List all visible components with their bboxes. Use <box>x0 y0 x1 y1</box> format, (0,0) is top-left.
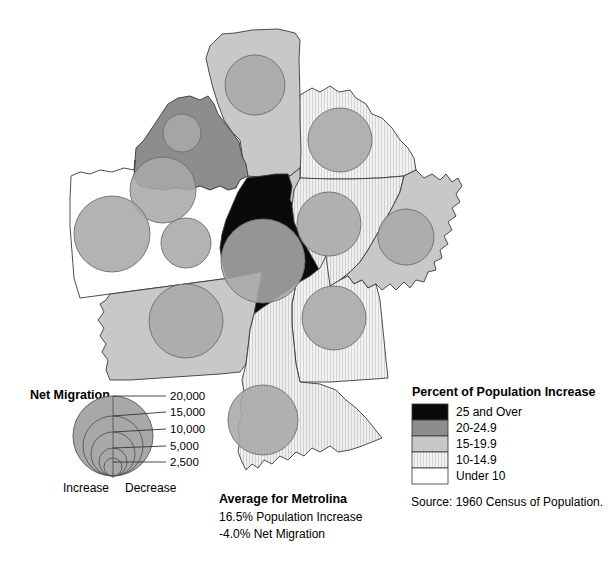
net-migration-decrease-label: Decrease <box>125 481 177 495</box>
summary-block: Average for Metrolina 16.5% Population I… <box>219 492 363 541</box>
summary-title: Average for Metrolina <box>219 492 348 506</box>
circle-southeast <box>302 286 366 350</box>
class-label-3: 10-14.9 <box>456 453 497 467</box>
class-swatch-1 <box>412 420 448 436</box>
class-swatch-4 <box>412 468 448 484</box>
circle-northwest <box>163 114 201 152</box>
net-migration-scale-label-2: 10,000 <box>170 423 205 435</box>
class-legend-title: Percent of Population Increase <box>412 385 595 399</box>
net-migration-scale-label-1: 15,000 <box>170 406 205 418</box>
summary-line-0: 16.5% Population Increase <box>219 510 363 524</box>
circle-northeast <box>308 108 372 172</box>
circle-west-central <box>161 218 211 268</box>
circle-east-central <box>297 192 361 256</box>
net-migration-legend: Net Migration 20,000 15,000 10,000 5,000… <box>30 388 205 495</box>
circle-south <box>228 385 298 455</box>
class-label-2: 15-19.9 <box>456 437 497 451</box>
circle-southwest <box>149 284 223 358</box>
class-label-4: Under 10 <box>456 469 506 483</box>
summary-line-1: -4.0% Net Migration <box>219 527 325 541</box>
net-migration-scale-label-3: 5,000 <box>170 440 199 452</box>
map-canvas: Net Migration 20,000 15,000 10,000 5,000… <box>0 0 608 572</box>
metrolina-population-map: Net Migration 20,000 15,000 10,000 5,000… <box>0 0 608 572</box>
net-migration-scale-label-4: 2,500 <box>170 456 199 468</box>
class-swatch-0 <box>412 404 448 420</box>
class-swatch-3 <box>412 452 448 468</box>
class-legend: Percent of Population Increase 25 and Ov… <box>412 385 595 484</box>
net-migration-increase-label: Increase <box>63 481 109 495</box>
source-note: Source: 1960 Census of Population. <box>411 495 603 509</box>
class-label-0: 25 and Over <box>456 405 522 419</box>
circle-far-east <box>378 209 434 265</box>
circle-north-central <box>225 55 285 115</box>
net-migration-scale-label-0: 20,000 <box>170 390 205 402</box>
circle-central <box>221 219 305 303</box>
class-swatch-2 <box>412 436 448 452</box>
circle-far-west <box>74 196 150 272</box>
class-label-1: 20-24.9 <box>456 421 497 435</box>
